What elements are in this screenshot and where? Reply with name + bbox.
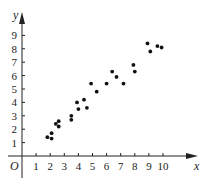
data-point	[133, 70, 137, 74]
data-point	[132, 63, 136, 67]
data-point	[57, 119, 61, 123]
data-points	[46, 42, 164, 141]
x-tick-label: 10	[158, 160, 170, 172]
data-point	[146, 42, 150, 46]
y-tick-label: 8	[12, 43, 18, 55]
x-tick-label: 8	[132, 160, 138, 172]
y-tick-label: 5	[12, 83, 18, 95]
y-tick-label: 4	[12, 96, 18, 108]
x-tick-label: 5	[90, 160, 96, 172]
data-point	[50, 137, 54, 141]
x-tick-label: 7	[118, 160, 124, 172]
data-point	[85, 106, 89, 110]
data-point	[46, 135, 50, 139]
scatter-plot: xyO 12345678910123456789	[0, 0, 205, 184]
data-point	[122, 82, 126, 86]
data-point	[69, 114, 73, 118]
data-point	[89, 82, 93, 86]
y-tick-label: 2	[12, 123, 18, 135]
data-point	[115, 75, 119, 79]
data-point	[69, 118, 73, 122]
y-tick-label: 6	[12, 70, 18, 82]
y-axis-arrow-icon	[19, 12, 25, 24]
data-point	[148, 50, 152, 54]
data-point	[54, 122, 58, 126]
y-tick-label: 3	[12, 110, 18, 122]
data-point	[105, 82, 109, 86]
data-point	[160, 46, 164, 50]
x-tick-label: 6	[104, 160, 110, 172]
x-tick-label: 4	[76, 160, 82, 172]
data-point	[110, 70, 114, 74]
y-tick-label: 7	[12, 56, 18, 68]
data-point	[50, 131, 54, 135]
data-point	[95, 90, 99, 94]
y-tick-label: 9	[12, 29, 18, 41]
tick-marks: 12345678910123456789	[12, 29, 170, 172]
x-tick-label: 1	[33, 160, 39, 172]
x-tick-label: 3	[62, 160, 68, 172]
data-point	[75, 101, 79, 105]
data-point	[77, 107, 81, 111]
origin-label: O	[10, 159, 19, 173]
x-tick-label: 9	[146, 160, 152, 172]
data-point	[82, 98, 86, 102]
x-tick-label: 2	[47, 160, 53, 172]
x-axis-label: x	[193, 159, 200, 173]
data-point	[156, 44, 160, 48]
data-point	[57, 125, 61, 129]
axes: xyO	[8, 8, 200, 178]
y-tick-label: 1	[12, 137, 18, 149]
y-axis-label: y	[12, 8, 19, 22]
